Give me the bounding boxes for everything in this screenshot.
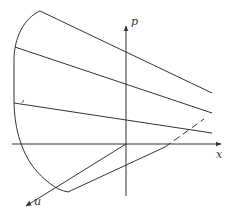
upper-line-3 bbox=[14, 103, 212, 133]
boundary-curve bbox=[14, 11, 68, 192]
p-axis-label: p bbox=[131, 15, 138, 28]
x-axis-label: x bbox=[216, 148, 223, 161]
lower-line bbox=[68, 147, 165, 192]
upper-line-2 bbox=[15, 47, 212, 113]
diagram-canvas: x p u bbox=[0, 0, 232, 215]
u-axis-label: u bbox=[34, 195, 41, 208]
dashed-continuation bbox=[165, 119, 204, 147]
tick-mark bbox=[22, 100, 24, 103]
